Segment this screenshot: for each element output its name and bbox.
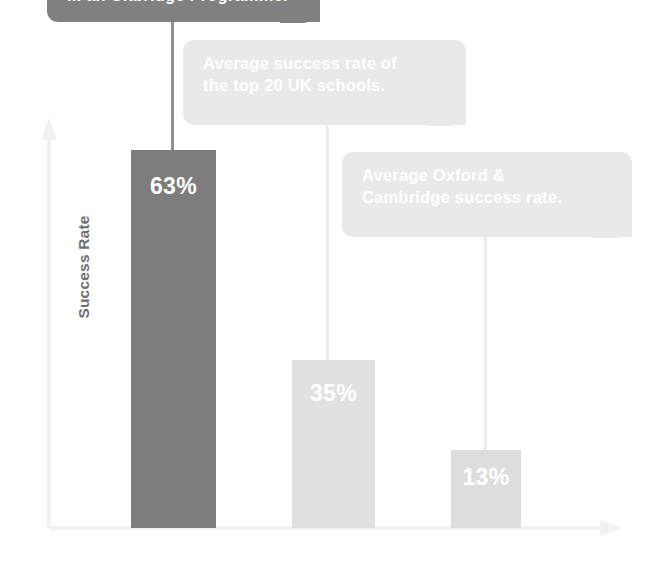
callout-tail-notch bbox=[426, 104, 466, 126]
callout-line-1: ... an Oxbridge Programme. bbox=[67, 0, 302, 7]
bar-value-label: 63% bbox=[131, 173, 216, 200]
y-axis-title: Success Rate bbox=[75, 187, 93, 347]
callout-tail-notch bbox=[592, 216, 632, 238]
callout-tail-notch bbox=[280, 1, 320, 23]
callout-line-1: Average success rate of bbox=[203, 53, 448, 75]
callout-connector-line bbox=[326, 124, 329, 362]
callout-oxford-cambridge-average: Average Oxford & Cambridge success rate. bbox=[342, 152, 632, 237]
callout-line-2: the top 20 UK schools. bbox=[203, 75, 448, 97]
bar-oxbridge-programme: 63% bbox=[131, 150, 216, 528]
bar-top-20-uk-schools: 35% bbox=[292, 360, 375, 528]
x-axis-arrow-icon bbox=[600, 520, 622, 536]
y-axis-arrow-icon bbox=[41, 118, 57, 140]
callout-line-2: Cambridge success rate. bbox=[362, 187, 614, 209]
callout-line-1: Average Oxford & bbox=[362, 165, 614, 187]
bar-value-label: 35% bbox=[292, 380, 375, 407]
callout-oxbridge-programme: ... an Oxbridge Programme. bbox=[47, 0, 320, 22]
bar-chart: Success Rate 63% 35% 13% ... an Oxbridge… bbox=[0, 0, 648, 566]
bar-value-label: 13% bbox=[451, 464, 521, 491]
bar-oxford-cambridge-average: 13% bbox=[451, 450, 521, 528]
callout-connector-line bbox=[171, 18, 174, 152]
callout-connector-line bbox=[484, 236, 487, 452]
callout-top-20-uk-schools: Average success rate of the top 20 UK sc… bbox=[183, 40, 466, 125]
